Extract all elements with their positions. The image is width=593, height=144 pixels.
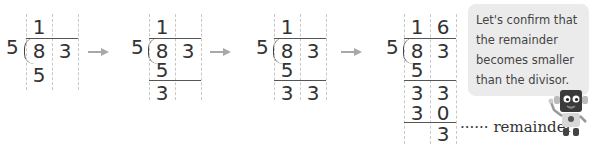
arrow-right-icon [341, 47, 363, 57]
divisor: 5 [256, 35, 269, 59]
work-digit: 3 [404, 102, 430, 124]
work-digit: 0 [430, 102, 456, 124]
hint-callout: Let's confirm that the remainder becomes… [468, 4, 589, 96]
divisor: 5 [6, 35, 19, 59]
divisor: 5 [131, 35, 144, 59]
work-digit: 3 [149, 82, 175, 104]
work-digit: 5 [26, 64, 52, 86]
divisor: 5 [386, 35, 399, 59]
work-digit: 5 [149, 59, 175, 81]
arrow-right-icon [210, 47, 232, 57]
quotient-digit: 1 [404, 16, 430, 38]
quotient-digit: 1 [26, 16, 52, 38]
hint-text: Let's confirm that the remainder becomes… [476, 13, 577, 87]
remainder-digit: 3 [430, 123, 456, 144]
dividend-digit: 3 [300, 40, 326, 62]
quotient-digit: 6 [430, 16, 456, 38]
dividend-digit: 8 [26, 40, 52, 62]
dividend-digit: 3 [430, 40, 456, 62]
robot-mascot-icon [548, 88, 590, 142]
dividend-digit: 3 [52, 40, 78, 62]
work-digit: 5 [404, 59, 430, 81]
work-digit: 3 [300, 82, 326, 104]
quotient-digit: 1 [274, 16, 300, 38]
work-digit: 5 [274, 59, 300, 81]
arrow-right-icon [88, 47, 110, 57]
quotient-digit: 1 [149, 16, 175, 38]
dividend-digit: 3 [175, 40, 201, 62]
work-digit: 3 [274, 82, 300, 104]
